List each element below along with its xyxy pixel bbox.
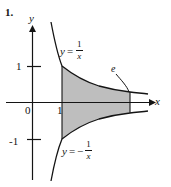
upper-eq-lhs: y — [60, 45, 65, 57]
upper-eq-fraction: 1 x — [76, 40, 83, 61]
y-tick-label-minus-one: -1 — [9, 136, 18, 147]
upper-eq-equals: = — [67, 45, 73, 57]
lower-eq-numerator: 1 — [85, 140, 92, 149]
y-axis-arrowhead — [29, 25, 36, 32]
lower-curve-equation: y = − 1 x — [62, 140, 92, 161]
upper-curve-equation: y = 1 x — [60, 40, 83, 61]
e-leader-line — [116, 74, 129, 92]
lower-eq-minus: − — [77, 145, 83, 157]
lower-eq-fraction: 1 x — [85, 140, 92, 161]
e-bound-label: e — [111, 64, 115, 74]
x-axis-label: x — [155, 96, 160, 107]
problem-number: 1. — [5, 7, 13, 18]
lower-eq-denominator: x — [86, 152, 92, 161]
upper-eq-numerator: 1 — [76, 40, 83, 49]
y-axis-label: y — [29, 13, 34, 24]
lower-eq-lhs: y — [62, 145, 67, 157]
figure-container: 1. y x 1 -1 0 1 e y = 1 x y = − 1 x — [0, 0, 171, 187]
lower-eq-equals: = — [69, 145, 75, 157]
x-tick-label-one: 1 — [57, 105, 63, 116]
upper-eq-denominator: x — [76, 52, 82, 61]
y-tick-label-one: 1 — [16, 61, 22, 72]
origin-label: 0 — [25, 105, 31, 116]
